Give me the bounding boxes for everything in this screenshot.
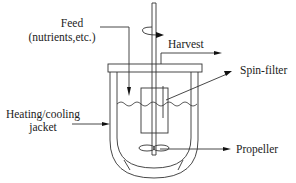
- feed-arrow: [100, 27, 131, 96]
- propeller-icon: [139, 145, 169, 151]
- harvest-arrow: [161, 51, 222, 64]
- propeller-label: Propeller: [236, 143, 278, 156]
- vessel-lid: [108, 64, 202, 72]
- liquid-surface: [117, 102, 197, 106]
- rotation-arrow-icon: [142, 27, 164, 38]
- bioreactor-diagram: Harvest Feed (nutrients,etc.) Spin-filte…: [0, 0, 296, 183]
- jacket-label: Heating/cooling: [6, 108, 80, 121]
- spin-filter: [141, 88, 168, 133]
- drive-shaft: [152, 3, 156, 155]
- spin-filter-label: Spin-filter: [240, 64, 287, 77]
- harvest-label: Harvest: [168, 38, 205, 50]
- jacket-pointer: [72, 122, 110, 126]
- inner-vessel: [117, 72, 191, 168]
- feed-label: Feed: [61, 17, 84, 29]
- jacket-sublabel: jacket: [28, 121, 57, 134]
- spin-filter-pointer: [166, 71, 232, 100]
- feed-sublabel: (nutrients,etc.): [28, 31, 95, 44]
- propeller-pointer: [160, 147, 231, 151]
